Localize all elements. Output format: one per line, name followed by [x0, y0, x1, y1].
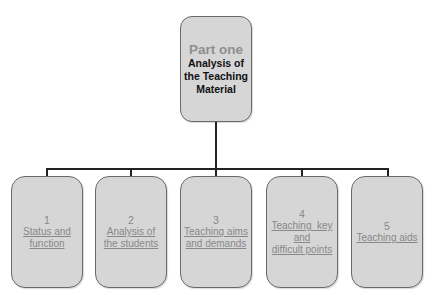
child-node-1: 1 Status and function [11, 176, 83, 288]
root-node: Part one Analysis of the Teaching Materi… [180, 16, 252, 122]
child-3-number: 3 [213, 214, 219, 226]
child-4-line-1: Teaching key [271, 220, 332, 232]
child-5-line-1: Teaching aids [356, 232, 417, 244]
child-node-2: 2 Analysis of the students [95, 176, 167, 288]
root-stem-connector [215, 122, 217, 170]
child-node-4: 4 Teaching key and difficult points [266, 176, 338, 288]
child-4-line-2: and [294, 232, 311, 244]
root-title-line-3: Material [196, 83, 236, 96]
child-1-line-1: Status and [23, 226, 71, 238]
root-title-line-1: Analysis of [188, 57, 244, 70]
child-3-line-2: and demands [186, 238, 247, 250]
child-4-line-3: difficult points [272, 244, 332, 256]
horizontal-bus-connector [47, 168, 389, 170]
child-4-number: 4 [299, 208, 305, 220]
root-title-line-2: the Teaching [184, 70, 248, 83]
child-2-line-1: Analysis of [107, 226, 155, 238]
child-node-3: 3 Teaching aims and demands [180, 176, 252, 288]
child-3-line-1: Teaching aims [184, 226, 248, 238]
child-1-number: 1 [44, 214, 50, 226]
child-5-number: 5 [384, 220, 390, 232]
root-part-label: Part one [189, 42, 243, 57]
child-node-5: 5 Teaching aids [351, 176, 423, 288]
child-1-line-2: function [29, 238, 64, 250]
child-2-number: 2 [128, 214, 134, 226]
child-2-line-2: the students [104, 238, 158, 250]
